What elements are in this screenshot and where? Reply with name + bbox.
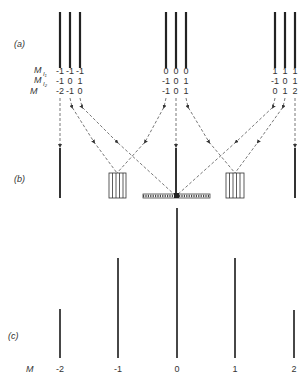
- b-center-bar: [143, 193, 210, 198]
- svg-text:0: 0: [163, 66, 168, 76]
- panel-c-bars: [60, 208, 294, 358]
- svg-text:0: 0: [173, 86, 178, 96]
- svg-text:M: M: [30, 86, 38, 96]
- diagram: (a) (b) (c) M I₁ M I₂ M -1 -1 -1 -1 0 1 …: [0, 0, 308, 384]
- panel-a-label: (a): [14, 39, 25, 49]
- svg-text:M: M: [26, 364, 34, 374]
- svg-text:I₁: I₁: [43, 71, 47, 77]
- b-box-left: [109, 173, 126, 198]
- svg-text:0: 0: [272, 86, 277, 96]
- svg-text:-1: -1: [66, 86, 74, 96]
- svg-text:-1: -1: [271, 76, 279, 86]
- svg-text:1: 1: [232, 364, 237, 374]
- svg-text:-1: -1: [114, 364, 122, 374]
- svg-text:0: 0: [67, 76, 72, 86]
- svg-text:-1: -1: [76, 66, 84, 76]
- svg-text:-1: -1: [56, 76, 64, 86]
- svg-text:1: 1: [282, 86, 287, 96]
- panel-c-label: (c): [8, 331, 19, 341]
- svg-text:2: 2: [292, 86, 297, 96]
- row-labels: M I₁ M I₂ M: [30, 65, 48, 96]
- svg-text:I₂: I₂: [43, 81, 48, 87]
- svg-text:-2: -2: [56, 364, 64, 374]
- svg-text:1: 1: [292, 66, 297, 76]
- svg-text:1: 1: [183, 76, 188, 86]
- b-box-right: [226, 173, 244, 198]
- svg-text:1: 1: [282, 66, 287, 76]
- svg-text:-1: -1: [162, 76, 170, 86]
- panel-a-sticks: [60, 12, 295, 68]
- svg-text:0: 0: [183, 66, 188, 76]
- svg-text:0: 0: [282, 76, 287, 86]
- svg-text:-2: -2: [56, 86, 64, 96]
- svg-text:2: 2: [291, 364, 296, 374]
- svg-text:0: 0: [173, 66, 178, 76]
- svg-text:1: 1: [272, 66, 277, 76]
- svg-text:0: 0: [173, 76, 178, 86]
- svg-text:M: M: [34, 75, 42, 85]
- panel-b: [60, 148, 295, 198]
- svg-text:1: 1: [183, 86, 188, 96]
- svg-text:0: 0: [174, 364, 179, 374]
- svg-text:-1: -1: [162, 86, 170, 96]
- svg-text:M: M: [34, 65, 42, 75]
- svg-text:-1: -1: [56, 66, 64, 76]
- svg-text:0: 0: [77, 86, 82, 96]
- svg-text:-1: -1: [66, 66, 74, 76]
- panel-c-axis: M -2 -1 0 1 2: [26, 364, 297, 374]
- dashed-connectors: [60, 98, 295, 196]
- svg-text:1: 1: [292, 76, 297, 86]
- panel-b-label: (b): [14, 174, 25, 184]
- svg-text:1: 1: [77, 76, 82, 86]
- group-values: -1 -1 -1 -1 0 1 -2 -1 0 0 0 0 -1 0 1 -1 …: [56, 66, 298, 96]
